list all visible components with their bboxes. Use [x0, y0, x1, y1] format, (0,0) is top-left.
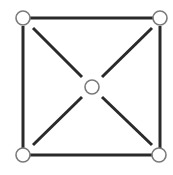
node-bottom-right — [152, 148, 166, 162]
edge-bottom-right-to-center — [102, 97, 152, 145]
graph-diagram — [0, 0, 173, 175]
node-top-left — [16, 11, 30, 25]
edge-top-left-to-center — [33, 28, 82, 77]
node-top-right — [153, 11, 167, 25]
edge-bottom-left-to-center — [33, 97, 82, 145]
node-bottom-left — [16, 148, 30, 162]
node-center — [85, 80, 99, 94]
edge-top-right-to-center — [102, 28, 152, 77]
